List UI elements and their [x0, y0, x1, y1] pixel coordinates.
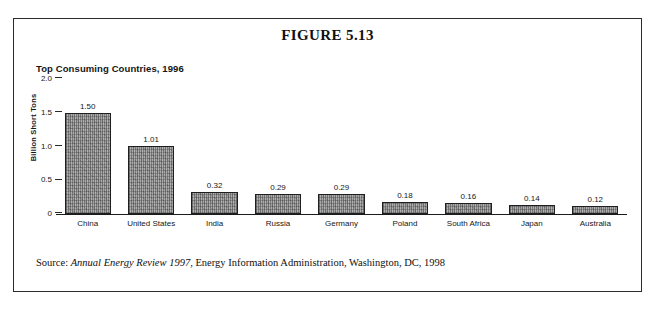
- y-axis-tick-label: 2.0: [41, 74, 52, 83]
- bar-value-label: 0.14: [509, 194, 555, 203]
- bar-united-states[interactable]: 1.01: [128, 79, 174, 214]
- bar-china[interactable]: 1.50: [65, 79, 111, 214]
- bar-value-label: 0.29: [318, 183, 364, 192]
- category-label-japan: Japan: [500, 219, 563, 228]
- bar-value-label: 0.18: [382, 191, 428, 200]
- source-publication: Annual Energy Review 1997: [71, 257, 190, 268]
- x-axis-baseline: [56, 214, 627, 215]
- bar-value-label: 0.12: [572, 195, 618, 204]
- category-label-south-africa: South Africa: [437, 219, 500, 228]
- category-label-india: India: [183, 219, 246, 228]
- bar-value-label: 1.01: [128, 135, 174, 144]
- source-prefix: Source:: [36, 257, 71, 268]
- figure-frame: FIGURE 5.13 Top Consuming Countries, 199…: [13, 18, 642, 292]
- y-axis-tick-label: 1.0: [41, 142, 52, 151]
- category-label-australia: Australia: [564, 219, 627, 228]
- bar-rect: [191, 192, 237, 214]
- bar-value-label: 0.16: [445, 192, 491, 201]
- bar-rect: [382, 202, 428, 214]
- y-axis-tick-label: 0.5: [41, 175, 52, 184]
- bar-rect: [255, 194, 301, 214]
- category-label-china: China: [56, 219, 119, 228]
- bar-russia[interactable]: 0.29: [255, 79, 301, 214]
- bar-value-label: 1.50: [65, 102, 111, 111]
- bar-rect: [572, 206, 618, 214]
- bar-chart-plot-area: Billion Short Tons 00.51.01.52.0 1.501.0…: [14, 19, 643, 293]
- bar-south-africa[interactable]: 0.16: [445, 79, 491, 214]
- category-label-united-states: United States: [119, 219, 182, 228]
- source-rest: , Energy Information Administration, Was…: [190, 257, 445, 268]
- bar-poland[interactable]: 0.18: [382, 79, 428, 214]
- y-axis-tick-label: 0: [48, 209, 52, 218]
- y-axis-label: Billion Short Tons: [29, 78, 38, 178]
- category-label-russia: Russia: [246, 219, 309, 228]
- bar-rect: [318, 194, 364, 214]
- category-label-germany: Germany: [310, 219, 373, 228]
- bar-rect: [128, 146, 174, 214]
- bar-rect: [65, 113, 111, 214]
- bar-germany[interactable]: 0.29: [318, 79, 364, 214]
- category-label-poland: Poland: [373, 219, 436, 228]
- bars-layer: 1.501.010.320.290.290.180.160.140.12: [56, 79, 627, 214]
- bar-japan[interactable]: 0.14: [509, 79, 555, 214]
- bar-australia[interactable]: 0.12: [572, 79, 618, 214]
- bar-value-label: 0.29: [255, 183, 301, 192]
- bar-rect: [445, 203, 491, 214]
- y-axis-tick-label: 1.5: [41, 108, 52, 117]
- source-note: Source: Annual Energy Review 1997, Energ…: [36, 257, 625, 270]
- bar-rect: [509, 205, 555, 214]
- bar-value-label: 0.32: [191, 181, 237, 190]
- bar-india[interactable]: 0.32: [191, 79, 237, 214]
